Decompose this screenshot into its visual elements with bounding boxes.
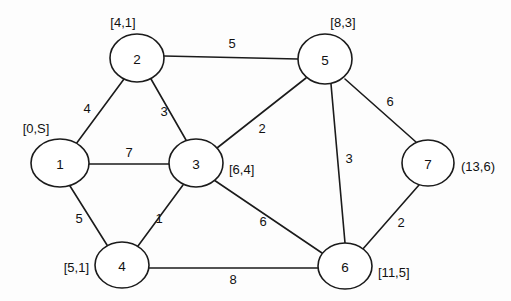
node-1-annotation-label: [0,S] (23, 121, 50, 136)
node-6-annotation-label: [11,5] (378, 265, 410, 280)
edge-3-5-weight-label: 2 (258, 121, 265, 136)
graph-node-6: 6 (318, 243, 372, 289)
edge-3-4-weight-label: 1 (155, 211, 162, 226)
edge-5-7 (345, 79, 416, 142)
graph-node-3: 3 (169, 139, 223, 187)
edge-1-2-weight-label: 4 (83, 101, 90, 116)
edge-2-3 (151, 79, 186, 140)
edge-2-3-weight-label: 3 (160, 104, 167, 119)
edge-6-7-weight-label: 2 (397, 215, 404, 230)
node-3-id-label: 3 (192, 157, 200, 172)
node-7-id-label: 7 (424, 157, 432, 172)
edge-2-5-weight-label: 5 (228, 36, 235, 51)
edge-5-6 (331, 84, 345, 243)
node-2-annotation-label: [4,1] (110, 15, 135, 30)
node-3-annotation-label: [6,4] (229, 162, 254, 177)
node-1-id-label: 1 (56, 157, 64, 172)
edge-3-6-weight-label: 6 (259, 214, 266, 229)
edge-2-5 (164, 56, 298, 59)
edge-4-6-weight-label: 8 (229, 272, 236, 287)
graph-node-1: 1 (31, 139, 89, 187)
node-4-id-label: 4 (118, 259, 126, 274)
node-7-annotation-label: (13,6) (461, 159, 495, 174)
graph-node-5: 5 (298, 34, 352, 84)
graph-diagram-canvas: 475351268362 1234567 [0,S][4,1][6,4][5,1… (0, 0, 511, 301)
node-5-annotation-label: [8,3] (330, 15, 355, 30)
node-6-id-label: 6 (341, 260, 349, 275)
edge-3-6 (214, 180, 322, 253)
graph-node-7: 7 (402, 140, 454, 186)
graph-svg: 475351268362 1234567 [0,S][4,1][6,4][5,1… (0, 0, 511, 301)
graph-node-2: 2 (110, 34, 164, 82)
graph-node-4: 4 (95, 242, 149, 288)
edge-1-3-weight-label: 7 (125, 145, 132, 160)
edge-1-4-weight-label: 5 (75, 211, 82, 226)
edge-5-7-weight-label: 6 (386, 94, 393, 109)
edge-5-6-weight-label: 3 (345, 151, 352, 166)
node-4-annotation-label: [5,1] (64, 260, 89, 275)
node-5-id-label: 5 (321, 53, 329, 68)
edge-6-7 (362, 185, 419, 250)
edge-3-5 (217, 78, 306, 148)
node-2-id-label: 2 (133, 52, 141, 67)
